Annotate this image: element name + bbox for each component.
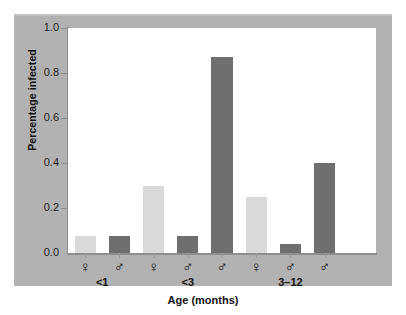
bar-series — [68, 28, 376, 253]
sex-symbol-male: ♂ — [216, 257, 227, 277]
y-tick-label: 0.0 — [15, 247, 59, 258]
bar — [314, 163, 335, 253]
bar — [280, 244, 301, 253]
age-group-label: <1 — [96, 276, 109, 288]
bar — [177, 236, 198, 253]
age-group-label: <3 — [181, 276, 194, 288]
bar — [246, 197, 267, 253]
y-tick-label: 1.0 — [15, 22, 59, 33]
bar — [109, 236, 130, 253]
age-group-label: 3–12 — [278, 276, 302, 288]
sex-symbol-female: ♀ — [251, 257, 262, 277]
bar — [211, 57, 232, 253]
sex-symbol-male: ♂ — [285, 257, 296, 277]
sex-symbol-male: ♂ — [182, 257, 193, 277]
y-tick-label: 0.4 — [15, 157, 59, 168]
bar — [75, 236, 96, 253]
y-tick-label: 0.6 — [15, 112, 59, 123]
x-axis-title: Age (months) — [14, 294, 392, 306]
plot-area — [68, 28, 376, 253]
sex-symbol-male: ♂ — [114, 257, 125, 277]
y-axis-title: Percentage infected — [26, 30, 38, 170]
bar — [143, 186, 164, 254]
sex-symbol-female: ♀ — [79, 257, 90, 277]
y-tick-label: 0.8 — [15, 67, 59, 78]
y-tick-label: 0.2 — [15, 202, 59, 213]
sex-symbol-male: ♂ — [319, 257, 330, 277]
sex-symbol-female: ♀ — [148, 257, 159, 277]
figure-panel: Percentage infected 0.00.20.40.60.81.0 ♀… — [14, 14, 392, 286]
age-group-labels: <1<33–12 — [68, 276, 376, 292]
